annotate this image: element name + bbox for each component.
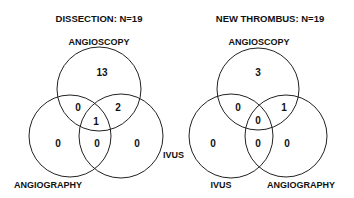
diagram-title: DISSECTION: N=19 — [56, 13, 143, 24]
set-label-top: ANGIOSCOPY — [68, 37, 129, 47]
set-label-right: IVUS — [163, 150, 184, 160]
region-left-right: 0 — [94, 138, 100, 149]
region-top-only: 3 — [255, 67, 261, 78]
venn-dissection: DISSECTION: N=19 ANGIOSCOPY 13 0 2 1 0 0… — [14, 13, 184, 190]
circle-angioscopy — [57, 47, 141, 131]
region-left-right: 0 — [255, 138, 261, 149]
venn-new-thrombus: NEW THROMBUS: N=19 ANGIOSCOPY 3 0 1 0 0 … — [189, 13, 335, 190]
region-center: 0 — [255, 115, 261, 126]
region-top-only: 13 — [96, 67, 108, 78]
region-top-left: 0 — [75, 102, 81, 113]
set-label-left: IVUS — [210, 180, 231, 190]
region-top-left: 0 — [235, 102, 241, 113]
set-label-top: ANGIOSCOPY — [228, 37, 289, 47]
set-label-right: ANGIOGRAPHY — [267, 180, 335, 190]
circle-ivus — [79, 94, 163, 178]
region-top-right: 2 — [115, 102, 121, 113]
circle-ivus — [189, 94, 273, 178]
region-left-only: 0 — [210, 138, 216, 149]
region-top-right: 1 — [281, 102, 287, 113]
circle-angiography — [29, 95, 111, 177]
region-left-only: 0 — [55, 138, 61, 149]
region-right-only: 0 — [284, 138, 290, 149]
diagram-title: NEW THROMBUS: N=19 — [216, 13, 324, 24]
set-label-left: ANGIOGRAPHY — [14, 180, 82, 190]
region-right-only: 0 — [134, 138, 140, 149]
region-center: 1 — [93, 116, 99, 127]
venn-figure: DISSECTION: N=19 ANGIOSCOPY 13 0 2 1 0 0… — [0, 0, 354, 198]
